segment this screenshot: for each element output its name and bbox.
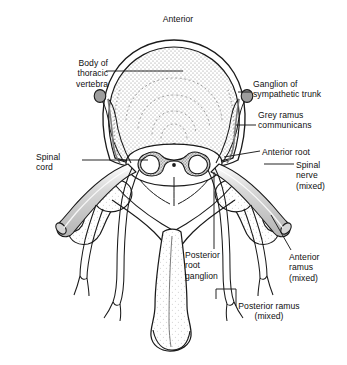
label-posterior-root-ganglion: Posterior root ganglion <box>185 250 239 281</box>
white-matter-right <box>189 155 208 173</box>
label-spinal-nerve: Spinal nerve (mixed) <box>296 160 346 191</box>
posterior-ramus-left-fork <box>113 302 120 305</box>
anatomical-figure: Anterior Body of thoracic vertebra Gangl… <box>0 0 347 365</box>
label-spinal-cord: Spinal cord <box>36 152 84 173</box>
label-anterior-ramus: Anterior ramus (mixed) <box>289 252 345 283</box>
label-posterior-ramus: Posterior ramus (mixed) <box>222 301 316 322</box>
sympathetic-ganglion-right <box>241 90 253 103</box>
posterior-ramus-left-branch-a <box>104 302 113 318</box>
spinal-cord-group <box>126 144 222 206</box>
central-canal <box>172 163 176 167</box>
posterior-ramus-left-branch-b <box>120 304 121 321</box>
anterior-ramus-right-fork <box>258 276 273 296</box>
label-body-of-thoracic-vertebra: Body of thoracic vertebra <box>44 58 108 89</box>
label-grey-ramus-communicans: Grey ramus communicans <box>258 110 346 131</box>
anterior-ramus-left-fork <box>74 276 89 296</box>
sympathetic-ganglion-left <box>94 90 106 103</box>
white-matter-left <box>141 155 160 173</box>
label-anterior-root: Anterior root <box>262 147 346 157</box>
label-ganglion-of-sympathetic-trunk: Ganglion of sympathetic trunk <box>253 79 345 100</box>
label-anterior: Anterior <box>148 14 208 24</box>
